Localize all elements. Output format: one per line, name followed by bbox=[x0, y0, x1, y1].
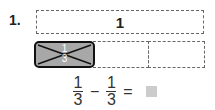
fraction-bar-row: 1 3 bbox=[34, 41, 205, 68]
third-piece-2 bbox=[93, 41, 149, 68]
fraction-b: 1 3 bbox=[106, 76, 116, 107]
fraction-a: 1 3 bbox=[73, 76, 83, 107]
minus-sign: − bbox=[90, 83, 99, 101]
piece-fraction: 1 3 bbox=[36, 44, 93, 64]
equals-sign: = bbox=[123, 83, 132, 101]
answer-box[interactable] bbox=[146, 86, 157, 97]
third-piece-3 bbox=[148, 41, 205, 68]
whole-label: 1 bbox=[116, 14, 124, 31]
problem-number: 1. bbox=[9, 12, 21, 28]
equation: 1 3 − 1 3 = bbox=[73, 76, 157, 107]
crossed-out-third: 1 3 bbox=[34, 41, 95, 68]
whole-bar: 1 bbox=[36, 10, 204, 34]
